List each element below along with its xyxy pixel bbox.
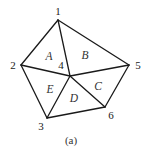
vertex-label-4: 4 xyxy=(58,59,64,71)
region-labels-group: ABCDE xyxy=(44,49,102,104)
region-label-d: D xyxy=(69,92,79,104)
region-label-a: A xyxy=(44,50,53,62)
vertex-label-2: 2 xyxy=(10,59,16,71)
edge-2-3 xyxy=(21,65,47,118)
region-label-e: E xyxy=(45,83,53,95)
vertex-label-1: 1 xyxy=(55,5,61,17)
triangulation-diagram: ABCDE 123456 (a) xyxy=(0,0,150,155)
edge-4-5 xyxy=(70,65,129,76)
vertex-label-3: 3 xyxy=(38,120,44,132)
edge-1-5 xyxy=(58,20,129,65)
region-label-c: C xyxy=(94,80,102,92)
vertex-label-6: 6 xyxy=(108,109,114,121)
vertex-label-5: 5 xyxy=(135,59,141,71)
edge-3-6 xyxy=(47,107,105,118)
region-label-b: B xyxy=(81,49,88,61)
edge-5-6 xyxy=(105,65,129,107)
figure-caption: (a) xyxy=(65,134,78,147)
